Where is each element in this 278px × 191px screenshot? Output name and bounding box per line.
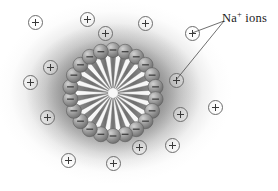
sodium-ion [208,100,223,115]
sodium-ion [43,60,58,75]
plus-icon-vertical [145,20,146,27]
plus-icon-vertical [68,157,69,164]
sodium-ion [61,153,76,168]
plus-icon-vertical [176,77,177,84]
micelle-diagram: Na+ ions [0,0,278,191]
plus-icon-vertical [113,160,114,167]
plus-icon-vertical [30,79,31,86]
sodium-ion [173,107,188,122]
na-ions-label-suffix: ions [242,11,267,25]
sodium-ion [23,75,38,90]
plus-icon-vertical [87,16,88,23]
plus-icon-vertical [35,19,36,26]
plus-icon-vertical [180,111,181,118]
plus-icon-vertical [215,104,216,111]
na-ions-label-element: Na [222,11,237,25]
sodium-ion [98,26,113,41]
plus-icon-vertical [172,142,173,149]
sodium-ion [138,16,153,31]
plus-icon-vertical [105,30,106,37]
plus-icon-vertical [139,144,140,151]
leader-line [176,21,224,80]
sodium-ion [28,15,43,30]
sodium-ion [169,73,184,88]
sodium-ion [132,140,147,155]
sodium-ion [185,26,200,41]
plus-icon-vertical [192,30,193,37]
sodium-ion [165,138,180,153]
plus-icon-vertical [50,64,51,71]
sodium-ion [106,156,121,171]
sodium-ion [40,110,55,125]
na-ions-label: Na+ ions [222,9,267,26]
sodium-ion [80,12,95,27]
plus-icon-vertical [47,114,48,121]
micelle-structure [62,42,164,144]
